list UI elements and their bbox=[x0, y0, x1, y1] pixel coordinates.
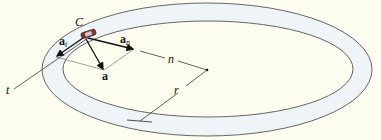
diagram-canvas: C at an a t n r bbox=[0, 0, 381, 140]
normal-axis-label: n bbox=[168, 53, 174, 65]
radius-label: r bbox=[174, 84, 179, 96]
tangential-accel-subscript: t bbox=[65, 40, 67, 49]
tangent-axis-label: t bbox=[6, 84, 9, 96]
car-label: C bbox=[75, 16, 83, 28]
tangential-accel-label: at bbox=[59, 35, 67, 47]
normal-accel-subscript: n bbox=[126, 38, 130, 47]
track-diagram-svg bbox=[0, 0, 381, 140]
total-accel-label: a bbox=[102, 70, 108, 82]
normal-accel-label: an bbox=[120, 33, 130, 45]
